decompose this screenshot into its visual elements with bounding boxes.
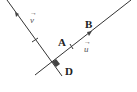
vector-arrow-icon: → — [84, 39, 91, 46]
label-vector-v: → v — [30, 16, 34, 25]
label-vector-u: → u — [84, 45, 89, 54]
diagram-lines — [0, 0, 137, 92]
vector-arrow-icon: → — [30, 10, 37, 17]
arrow-u-icon — [87, 31, 92, 36]
tick-mark-u — [70, 44, 73, 49]
label-point-b: B — [85, 19, 92, 30]
label-point-a: A — [58, 37, 66, 48]
line-u — [35, 0, 131, 75]
geometry-diagram: → v B A → u D — [0, 0, 137, 92]
label-point-d: D — [65, 66, 73, 77]
